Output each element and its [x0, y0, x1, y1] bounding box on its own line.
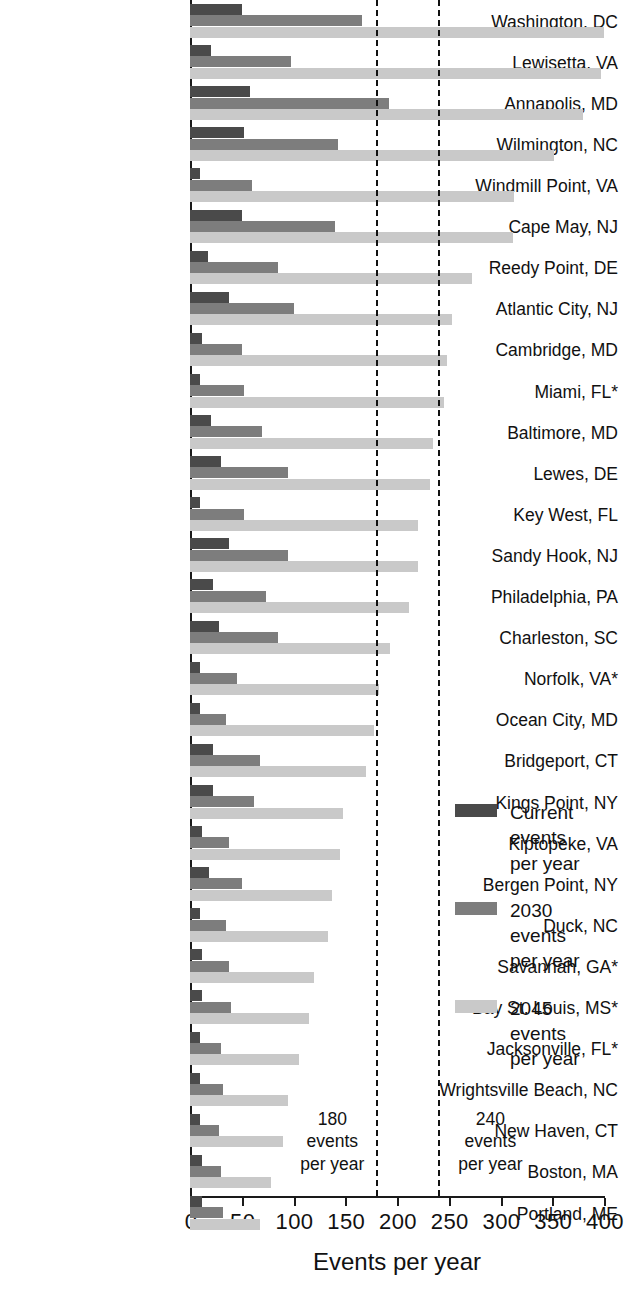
category-label: Lewes, DE — [437, 466, 623, 484]
bar-current — [190, 210, 242, 221]
bar-y2030 — [190, 509, 244, 520]
category-label: Portland, ME — [437, 1206, 623, 1224]
bar-y2045 — [190, 890, 332, 901]
bar-y2045 — [190, 191, 514, 202]
bar-y2045 — [190, 273, 472, 284]
bar-y2045 — [190, 931, 328, 942]
bar-y2030 — [190, 1207, 223, 1218]
bar-y2045 — [190, 479, 430, 490]
bar-y2045 — [190, 1013, 309, 1024]
bar-current — [190, 168, 200, 179]
bar-y2030 — [190, 1166, 221, 1177]
x-tick-label: 150 — [327, 1209, 365, 1235]
bar-y2030 — [190, 221, 335, 232]
bar-y2045 — [190, 1136, 283, 1147]
threshold-label-line: 180 — [298, 1108, 366, 1130]
bar-y2045 — [190, 643, 390, 654]
threshold-label-180: 180eventsper year — [298, 1108, 366, 1175]
bar-y2030 — [190, 673, 237, 684]
bar-current — [190, 703, 200, 714]
bar-y2045 — [190, 1177, 271, 1188]
bar-y2045 — [190, 520, 418, 531]
bar-current — [190, 127, 244, 138]
bar-current — [190, 908, 200, 919]
category-label: Cambridge, MD — [437, 342, 623, 360]
bar-current — [190, 86, 250, 97]
bar-current — [190, 662, 200, 673]
x-tick-mark — [397, 1198, 399, 1206]
category-label: Bridgeport, CT — [437, 753, 623, 771]
bar-y2045 — [190, 68, 601, 79]
category-label: Charleston, SC — [437, 630, 623, 648]
bar-current — [190, 415, 211, 426]
bar-current — [190, 579, 213, 590]
bar-current — [190, 1032, 200, 1043]
legend-label-line: 2045 — [510, 996, 615, 1021]
threshold-label-240: 240eventsper year — [454, 1108, 526, 1175]
bar-y2030 — [190, 550, 288, 561]
bar-current — [190, 497, 200, 508]
bar-y2030 — [190, 755, 260, 766]
bar-y2030 — [190, 98, 389, 109]
bar-y2045 — [190, 1219, 260, 1230]
x-tick-label: 200 — [379, 1209, 417, 1235]
legend-item-y2045: 2045eventsper year — [455, 996, 615, 1072]
legend-item-y2030: 2030eventsper year — [455, 898, 615, 974]
bar-y2030 — [190, 56, 291, 67]
bar-y2045 — [190, 972, 314, 983]
category-label: Norfolk, VA* — [437, 671, 623, 689]
bar-current — [190, 744, 213, 755]
bar-y2030 — [190, 303, 294, 314]
threshold-label-line: 240 — [454, 1108, 526, 1130]
x-tick-label: 100 — [275, 1209, 313, 1235]
bar-current — [190, 333, 202, 344]
bar-y2030 — [190, 1043, 221, 1054]
bar-y2045 — [190, 1054, 299, 1065]
bar-y2045 — [190, 725, 374, 736]
bar-y2030 — [190, 344, 242, 355]
bar-y2045 — [190, 1095, 288, 1106]
bar-current — [190, 251, 208, 262]
bar-y2045 — [190, 27, 604, 38]
bar-current — [190, 1114, 200, 1125]
bar-y2045 — [190, 561, 418, 572]
bar-current — [190, 621, 219, 632]
bar-y2045 — [190, 766, 366, 777]
legend-label-line: per year — [510, 851, 615, 876]
bar-current — [190, 538, 229, 549]
threshold-label-line: per year — [298, 1153, 366, 1175]
bar-current — [190, 374, 200, 385]
bar-current — [190, 45, 211, 56]
bar-y2045 — [190, 314, 452, 325]
category-label: Key West, FL — [437, 507, 623, 525]
bar-y2045 — [190, 438, 433, 449]
bar-current — [190, 456, 221, 467]
bar-current — [190, 949, 202, 960]
bar-y2030 — [190, 1084, 223, 1095]
bar-y2045 — [190, 150, 554, 161]
bar-current — [190, 1073, 200, 1084]
threshold-label-line: per year — [454, 1153, 526, 1175]
bar-current — [190, 867, 209, 878]
legend-label: Currenteventsper year — [510, 800, 615, 876]
x-tick-mark — [294, 1198, 296, 1206]
bar-y2045 — [190, 684, 379, 695]
chart-legend: Currenteventsper year2030eventsper year2… — [455, 800, 615, 1093]
bar-y2030 — [190, 961, 229, 972]
legend-swatch-y2030 — [455, 902, 497, 915]
bar-y2030 — [190, 262, 278, 273]
bar-y2030 — [190, 180, 252, 191]
bar-current — [190, 292, 229, 303]
bar-y2030 — [190, 139, 338, 150]
threshold-line-240 — [438, 0, 440, 1196]
legend-label: 2030eventsper year — [510, 898, 615, 974]
x-tick-mark — [345, 1198, 347, 1206]
bar-y2030 — [190, 837, 229, 848]
bar-y2045 — [190, 355, 447, 366]
legend-label-line: 2030 — [510, 898, 615, 923]
category-label: Sandy Hook, NJ — [437, 548, 623, 566]
bar-y2045 — [190, 849, 340, 860]
bar-y2030 — [190, 591, 266, 602]
legend-label-line: Current — [510, 800, 615, 825]
bar-y2045 — [190, 232, 513, 243]
